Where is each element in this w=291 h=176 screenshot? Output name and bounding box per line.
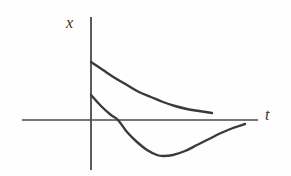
curves-group xyxy=(91,62,245,156)
horizontal-axis-label: t xyxy=(265,107,269,123)
upper-decay-curve xyxy=(91,62,212,113)
plot-canvas xyxy=(0,0,291,176)
figure-container: x t xyxy=(0,0,291,176)
vertical-axis-label: x xyxy=(66,15,73,31)
